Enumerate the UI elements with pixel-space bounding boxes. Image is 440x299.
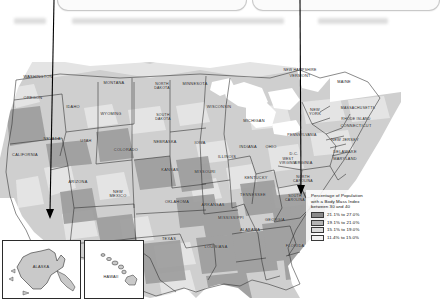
state-label-new-mexico: NEW MEXICO: [110, 190, 127, 199]
state-label-georgia: GEORGIA: [265, 218, 285, 222]
state-label-kansas: KANSAS: [161, 168, 178, 172]
state-label-pennsylvania: PENNSYLVANIA: [287, 133, 316, 137]
legend-title: Percentage of Population with a Body Mas…: [311, 193, 399, 210]
legend-swatch: [311, 212, 324, 218]
state-label-florida: FLORIDA: [286, 244, 305, 248]
placeholder-bar-1: [14, 18, 46, 24]
state-label-california: CALIFORNIA: [12, 153, 38, 157]
alaska-geometry: [3, 241, 80, 298]
state-label-kentucky: KENTUCKY: [244, 176, 267, 180]
state-label-utah: UTAH: [80, 139, 91, 143]
state-label-rhode-island: RHODE ISLAND: [341, 117, 370, 121]
state-label-idaho: IDAHO: [66, 105, 80, 109]
alaska-inset[interactable]: ALASKA: [2, 240, 81, 299]
state-label-indiana: INDIANA: [239, 145, 257, 149]
state-label-oklahoma: OKLAHOMA: [165, 200, 189, 204]
legend-label: 15.1% to 19.0%: [327, 227, 359, 233]
legend-entry: 11.4% to 15.0%: [311, 234, 399, 241]
state-label-louisiana: LOUISIANA: [204, 245, 227, 249]
state-label-mississippi: MISSISSIPPI: [218, 216, 244, 220]
legend-label: 11.4% to 15.0%: [327, 235, 359, 241]
legend-swatch: [311, 235, 324, 241]
hawaii-geometry: [85, 241, 143, 298]
legend-entry: 21.1% to 27.0%: [311, 212, 399, 219]
state-label-illinois: ILLINOIS: [218, 155, 236, 159]
state-label-maine: MAINE: [337, 80, 351, 84]
legend-swatch: [311, 227, 324, 233]
left-card[interactable]: [57, 0, 247, 11]
legend-entry: 19.1% to 21.0%: [311, 219, 399, 226]
state-label-montana: MONTANA: [104, 81, 125, 85]
state-label-texas: TEXAS: [162, 237, 176, 241]
state-label-wyoming: WYOMING: [100, 112, 121, 116]
top-card-row: [0, 0, 401, 12]
state-label-massachusetts: MASSACHUSETTS: [341, 106, 375, 110]
state-label-north-dakota: NORTH DAKOTA: [154, 82, 170, 91]
alaska-label: ALASKA: [33, 265, 50, 269]
map-legend: Percentage of Population with a Body Mas…: [306, 190, 401, 262]
state-label-new-hampshire: NEW HAMPSHIRE: [283, 68, 316, 72]
state-label-alabama: ALABAMA: [240, 228, 260, 232]
state-label-arkansas: ARKANSAS: [201, 203, 224, 207]
legend-label: 21.1% to 27.0%: [327, 212, 359, 218]
state-label-south-carolina: SOUTH CAROLINA: [285, 194, 305, 203]
legend-label: 19.1% to 21.0%: [327, 220, 359, 226]
state-label-nebraska: NEBRASKA: [153, 140, 176, 144]
state-label-ohio: OHIO: [266, 145, 277, 149]
right-card[interactable]: [252, 0, 440, 11]
placeholder-bar-2: [72, 18, 284, 24]
state-label-michigan: MICHIGAN: [243, 119, 264, 123]
state-label-virginia: VIRGINIA: [293, 161, 312, 165]
state-label-nevada: NEVADA: [43, 137, 60, 141]
state-label-south-dakota: SOUTH DAKOTA: [155, 113, 171, 122]
state-label-new-jersey: NEW JERSEY: [331, 138, 359, 142]
state-label-maryland: MARYLAND: [333, 157, 357, 161]
legend-swatch: [311, 220, 324, 226]
state-label-oregon: OREGON: [24, 96, 43, 100]
state-label-minnesota: MINNESOTA: [182, 82, 207, 86]
state-label-delaware: DELAWARE: [333, 150, 357, 154]
legend-rows: 21.1% to 27.0%19.1% to 21.0%15.1% to 19.…: [309, 212, 399, 241]
state-label-north-carolina: NORTH CAROLINA: [293, 175, 313, 184]
state-label-arizona: ARIZONA: [68, 180, 87, 184]
state-label-new-york: NEW YORK: [309, 108, 321, 117]
state-label-colorado: COLORADO: [114, 148, 138, 152]
state-label-wisconsin: WISCONSIN: [207, 105, 232, 109]
state-label-missouri: MISSOURI: [194, 170, 215, 174]
state-label-tennessee: TENNESSEE: [240, 193, 266, 197]
placeholder-bar-3: [318, 18, 388, 24]
hawaii-label: HAWAII: [103, 275, 118, 279]
hawaii-inset[interactable]: HAWAII: [84, 240, 144, 299]
state-label-connecticut: CONNECTICUT: [340, 124, 371, 128]
state-label-vermont: VERMONT: [289, 74, 310, 78]
state-label-d-c-: D.C.: [290, 152, 299, 156]
state-label-iowa: IOWA: [194, 141, 205, 145]
legend-entry: 15.1% to 19.0%: [311, 227, 399, 234]
state-label-washington: WASHINGTON: [23, 75, 52, 79]
